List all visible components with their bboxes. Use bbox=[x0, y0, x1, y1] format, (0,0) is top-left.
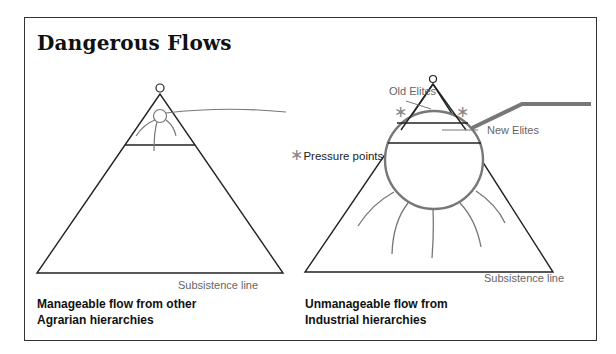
left-ray bbox=[154, 122, 157, 151]
right-ray bbox=[432, 209, 433, 258]
elite-bubble bbox=[385, 111, 483, 209]
right-caption: Unmanageable flow from Industrial hierar… bbox=[305, 296, 448, 328]
old-elites-leader bbox=[406, 101, 431, 109]
pressure-point-star-left-icon: ∗ bbox=[394, 102, 407, 121]
right-subsistence-label: Subsistence line bbox=[484, 272, 564, 284]
left-ray bbox=[136, 120, 155, 136]
old-elites-label: Old Elites bbox=[389, 85, 436, 97]
new-elites-label: New Elites bbox=[487, 124, 539, 136]
right-apex-circle bbox=[430, 76, 437, 83]
pressure-point-star-right-icon: ∗ bbox=[456, 102, 469, 121]
right-caption-line1: Unmanageable flow from bbox=[305, 296, 448, 312]
left-inflow-curve bbox=[166, 109, 286, 113]
right-ray bbox=[392, 203, 408, 254]
left-inflow-circle bbox=[154, 110, 167, 123]
left-apex-circle bbox=[156, 84, 164, 92]
right-ray bbox=[460, 203, 481, 247]
left-subsistence-label: Subsistence line bbox=[178, 279, 258, 291]
left-ray bbox=[166, 120, 176, 136]
left-caption-line2: Agrarian hierarchies bbox=[37, 312, 196, 328]
left-caption: Manageable flow from other Agrarian hier… bbox=[37, 296, 196, 328]
right-pyramid bbox=[305, 76, 591, 273]
left-caption-line1: Manageable flow from other bbox=[37, 296, 196, 312]
right-caption-line2: Industrial hierarchies bbox=[305, 312, 448, 328]
right-ray bbox=[476, 191, 505, 223]
pressure-points-label: Pressure points bbox=[303, 150, 383, 162]
right-ray bbox=[358, 192, 394, 226]
pressure-point-star-icon: ∗ bbox=[290, 146, 303, 163]
pressure-points-legend: ∗Pressure points bbox=[290, 145, 383, 164]
left-pyramid bbox=[37, 84, 286, 273]
